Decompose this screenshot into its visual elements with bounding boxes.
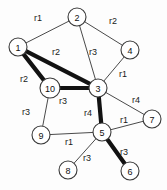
- node-label-9: 9: [38, 131, 43, 141]
- edge-label-10-9: r3: [22, 107, 30, 117]
- graph-node-6: 6: [121, 162, 139, 180]
- node-label-7: 7: [149, 115, 154, 125]
- node-label-8: 8: [65, 166, 70, 176]
- node-label-5: 5: [99, 128, 104, 138]
- edge-label-2-3: r3: [89, 47, 97, 57]
- graph-node-9: 9: [32, 126, 50, 144]
- graph-node-1: 1: [9, 38, 27, 56]
- graph-diagram: 12345678910 r1r2r3r1r2r2r3r3r4r4r1r1r3r3: [0, 0, 167, 190]
- edge-label-3-7: r4: [132, 95, 140, 105]
- edge-label-4-3: r1: [119, 69, 127, 79]
- node-label-3: 3: [95, 84, 100, 94]
- graph-edge-3-5: [99, 97, 101, 123]
- edge-label-3-5: r4: [84, 108, 92, 118]
- node-label-10: 10: [45, 84, 55, 94]
- edge-label-1-2: r1: [34, 13, 42, 23]
- edge-label-9-5: r1: [65, 137, 73, 147]
- node-label-4: 4: [127, 46, 132, 56]
- graph-node-4: 4: [121, 41, 139, 59]
- edge-label-1-3: r2: [52, 47, 60, 57]
- edge-label-5-8: r3: [83, 153, 91, 163]
- graph-edge-1-2: [26, 21, 69, 43]
- node-label-2: 2: [74, 13, 79, 23]
- graph-edge-10-9: [43, 98, 48, 126]
- edge-label-5-6: r3: [120, 147, 128, 157]
- graph-node-10: 10: [40, 78, 60, 98]
- node-label-6: 6: [127, 167, 132, 177]
- edge-label-5-7: r1: [120, 115, 128, 125]
- edge-label-10-3: r3: [59, 96, 67, 106]
- graph-node-2: 2: [68, 8, 86, 26]
- graph-node-8: 8: [59, 161, 77, 179]
- graph-node-7: 7: [143, 110, 161, 128]
- graph-node-3: 3: [89, 79, 107, 97]
- node-label-1: 1: [15, 43, 20, 53]
- edge-label-1-10: r2: [20, 74, 28, 84]
- graph-node-5: 5: [93, 123, 111, 141]
- graph-canvas: 12345678910 r1r2r3r1r2r2r3r3r4r4r1r1r3r3: [0, 0, 167, 190]
- edge-label-2-4: r2: [109, 16, 117, 26]
- graph-edge-9-5: [50, 132, 93, 134]
